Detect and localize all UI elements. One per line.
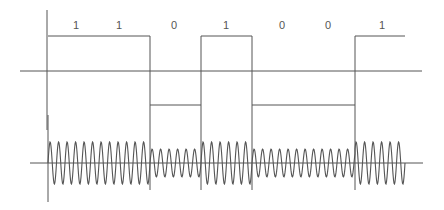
bit-label: 0 <box>325 19 331 31</box>
bit-label: 1 <box>73 19 79 31</box>
bit-label: 1 <box>223 19 229 31</box>
waveform-canvas <box>0 0 444 210</box>
bit-label: 0 <box>171 19 177 31</box>
bit-label: 1 <box>116 19 122 31</box>
bit-label: 0 <box>279 19 285 31</box>
bit-label: 1 <box>379 19 385 31</box>
